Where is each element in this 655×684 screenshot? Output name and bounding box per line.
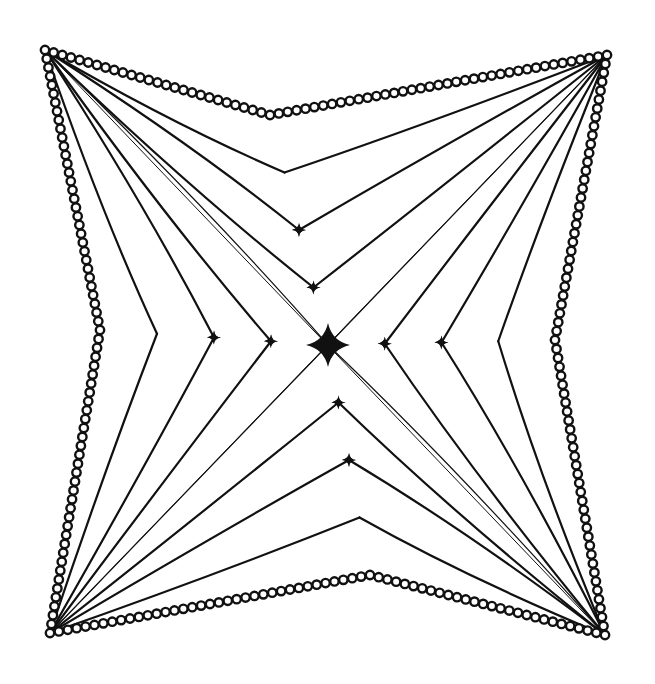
border-bead bbox=[119, 68, 127, 76]
border-bead bbox=[462, 595, 470, 603]
border-bead bbox=[354, 95, 362, 103]
border-bead bbox=[55, 575, 63, 583]
border-bead bbox=[557, 372, 565, 380]
border-bead bbox=[591, 113, 599, 121]
border-bead bbox=[390, 89, 398, 97]
border-bead bbox=[590, 568, 598, 576]
border-bead bbox=[61, 540, 69, 548]
border-bead bbox=[257, 108, 265, 116]
border-bead bbox=[59, 549, 67, 557]
border-bead bbox=[575, 479, 583, 487]
border-bead bbox=[277, 587, 285, 595]
border-bead bbox=[179, 86, 187, 94]
border-bead bbox=[555, 363, 563, 371]
border-bead bbox=[84, 58, 92, 66]
border-bead bbox=[53, 584, 61, 592]
border-bead bbox=[77, 230, 85, 238]
fan-ray bbox=[360, 518, 606, 636]
border-bead bbox=[312, 580, 320, 588]
border-bead bbox=[58, 558, 66, 566]
border-bead bbox=[145, 76, 153, 84]
border-bead bbox=[595, 95, 603, 103]
border-bead bbox=[587, 550, 595, 558]
border-bead bbox=[224, 597, 232, 605]
border-bead bbox=[566, 622, 574, 630]
border-bead bbox=[77, 442, 85, 450]
fan-ray bbox=[50, 403, 339, 634]
border-bead bbox=[48, 81, 56, 89]
border-bead bbox=[231, 101, 239, 109]
border-bead bbox=[581, 515, 589, 523]
border-bead bbox=[170, 606, 178, 614]
border-bead bbox=[79, 238, 87, 246]
border-bead bbox=[101, 63, 109, 71]
border-bead bbox=[68, 186, 76, 194]
border-bead bbox=[46, 72, 54, 80]
border-bead bbox=[65, 168, 73, 176]
border-bead bbox=[505, 68, 513, 76]
border-bead bbox=[401, 580, 409, 588]
border-bead bbox=[601, 60, 609, 68]
border-bead bbox=[286, 585, 294, 593]
border-bead bbox=[162, 81, 170, 89]
border-bead bbox=[240, 103, 248, 111]
shadow-wedge bbox=[207, 331, 221, 345]
border-bead bbox=[594, 52, 602, 60]
border-bead bbox=[74, 459, 82, 467]
border-bead bbox=[78, 433, 86, 441]
border-bead bbox=[215, 598, 223, 606]
border-bead bbox=[232, 595, 240, 603]
border-bead bbox=[50, 602, 58, 610]
border-bead bbox=[108, 618, 116, 626]
fan-ray bbox=[50, 334, 157, 633]
border-bead bbox=[75, 221, 83, 229]
border-bead bbox=[46, 629, 54, 637]
fan-ray bbox=[45, 50, 271, 341]
border-bead bbox=[259, 590, 267, 598]
border-bead bbox=[593, 586, 601, 594]
border-bead bbox=[87, 282, 95, 290]
border-bead bbox=[375, 573, 383, 581]
border-bead bbox=[366, 571, 374, 579]
border-bead bbox=[585, 149, 593, 157]
border-bead bbox=[554, 318, 562, 326]
border-bead bbox=[56, 125, 64, 133]
border-bead bbox=[435, 589, 443, 597]
border-bead bbox=[488, 602, 496, 610]
zentangle-drawing bbox=[0, 0, 655, 684]
border-bead bbox=[86, 388, 94, 396]
border-bead bbox=[569, 238, 577, 246]
border-bead bbox=[310, 103, 318, 111]
border-bead bbox=[41, 46, 49, 54]
border-bead bbox=[522, 611, 530, 619]
border-bead bbox=[51, 98, 59, 106]
border-bead bbox=[67, 177, 75, 185]
border-bead bbox=[560, 389, 568, 397]
border-bead bbox=[72, 624, 80, 632]
border-bead bbox=[63, 160, 71, 168]
border-bead bbox=[85, 273, 93, 281]
border-bead bbox=[589, 559, 597, 567]
border-bead bbox=[319, 101, 327, 109]
border-bead bbox=[599, 622, 607, 630]
border-bead bbox=[330, 577, 338, 585]
border-bead bbox=[592, 629, 600, 637]
border-bead bbox=[566, 425, 574, 433]
border-bead bbox=[55, 627, 63, 635]
shadow-wedge bbox=[435, 336, 449, 350]
border-bead bbox=[584, 532, 592, 540]
border-bead bbox=[595, 595, 603, 603]
border-bead bbox=[564, 416, 572, 424]
border-bead bbox=[392, 577, 400, 585]
border-bead bbox=[188, 603, 196, 611]
border-bead bbox=[496, 604, 504, 612]
border-bead bbox=[531, 613, 539, 621]
border-bead bbox=[523, 65, 531, 73]
border-bead bbox=[582, 167, 590, 175]
border-bead bbox=[348, 574, 356, 582]
border-bead bbox=[601, 631, 609, 639]
border-bead bbox=[87, 379, 95, 387]
border-bead bbox=[575, 624, 583, 632]
fan-ray bbox=[314, 55, 608, 288]
border-bead bbox=[55, 116, 63, 124]
